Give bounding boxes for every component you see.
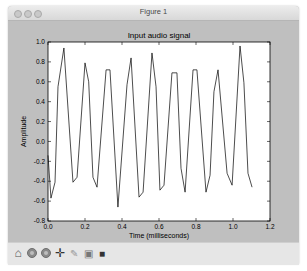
y-tick-label: 0.2 [36,118,45,125]
figure-canvas: Input audio signal0.00.20.40.60.81.01.21… [8,21,299,242]
x-tick-label: 0.8 [191,223,200,230]
configure-subplots-icon: ▣ [84,248,93,259]
x-tick-label: 1.0 [228,223,237,230]
zoom-rect-button[interactable]: ✎ [68,247,80,259]
y-tick-label: -0.8 [34,217,46,224]
navigation-toolbar: ⌂ ✛ ✎ ▣ ■ [8,242,299,265]
y-tick-label: -0.2 [34,158,46,165]
y-tick-label: 0.6 [36,78,45,85]
x-tick-label: 0.4 [117,223,126,230]
y-axis-label: Amplitude [20,116,28,147]
zoom-rect-icon: ✎ [70,248,78,259]
y-tick-label: -0.4 [34,177,46,184]
y-tick-label: 0.0 [36,138,45,145]
back-arrow-icon [27,248,37,258]
configure-subplots-button[interactable]: ▣ [82,247,94,259]
x-tick-label: 0.2 [80,223,89,230]
figure-window: Figure 1 Input audio signal0.00.20.40.60… [8,6,299,264]
x-tick-label: 1.2 [265,223,274,230]
back-button[interactable] [26,247,38,259]
x-tick-label: 0.6 [154,223,163,230]
pan-move-icon: ✛ [55,246,65,260]
home-icon: ⌂ [14,246,21,260]
x-axis-label: Time (milliseconds) [129,232,189,240]
save-button[interactable]: ■ [96,247,108,259]
title-bar[interactable]: Figure 1 [8,6,299,21]
save-icon: ■ [99,248,105,259]
home-button[interactable]: ⌂ [12,247,24,259]
y-tick-label: -0.6 [34,197,46,204]
pan-button[interactable]: ✛ [54,247,66,259]
y-tick-label: 1.0 [36,38,45,45]
window-title: Figure 1 [8,7,299,16]
chart-title: Input audio signal [128,31,191,40]
line-chart: Input audio signal0.00.20.40.60.81.01.21… [8,21,299,242]
y-tick-label: 0.8 [36,58,45,65]
forward-arrow-icon [41,248,51,258]
y-tick-label: 0.4 [36,98,45,105]
forward-button[interactable] [40,247,52,259]
plot-area [48,42,270,221]
